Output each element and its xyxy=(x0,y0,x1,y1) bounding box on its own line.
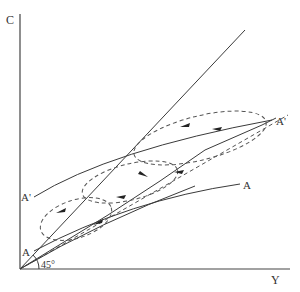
cycle-ellipse-upper xyxy=(129,100,272,176)
long-run-trend-dashed-line xyxy=(20,115,288,269)
cycle-ellipse-middle xyxy=(78,153,182,212)
y-axis-label: C xyxy=(6,13,14,27)
long-run-consumption-line xyxy=(20,118,276,269)
direction-arrow xyxy=(56,208,66,213)
angle-arc xyxy=(33,255,39,269)
angle-label: 45° xyxy=(41,259,55,270)
curve-a-right-label: A xyxy=(243,179,251,191)
x-axis-label: Y xyxy=(271,273,280,287)
curve-a-prime-right-label: A' xyxy=(276,115,286,127)
forty-five-degree-line xyxy=(20,30,245,269)
curve-a-left-label: A xyxy=(22,246,30,258)
direction-arrow xyxy=(180,123,190,127)
curve-a-prime-left-label: A' xyxy=(21,191,31,203)
consumption-diagram: C Y 45° A A A' A' xyxy=(0,0,300,292)
direction-arrow xyxy=(116,195,126,199)
diagram-canvas: C Y 45° A A A' A' xyxy=(0,0,300,292)
direction-arrow xyxy=(138,171,148,177)
